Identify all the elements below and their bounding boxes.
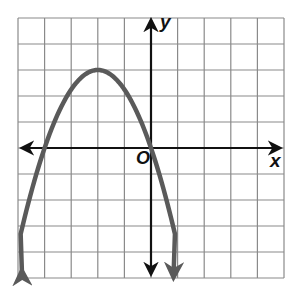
- origin-label: O: [136, 148, 150, 169]
- x-axis-label: x: [270, 150, 281, 172]
- y-axis-label: y: [160, 11, 171, 33]
